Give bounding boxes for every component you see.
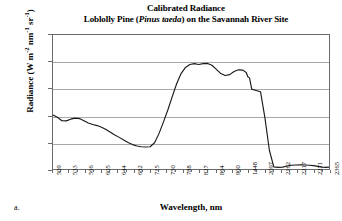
figure-caption: a. <box>14 203 20 212</box>
chart-subtitle: Loblolly Pine (Pinus taeda) on the Savan… <box>36 14 336 25</box>
x-tick-label-2217: 2217 <box>300 162 307 175</box>
x-tick-mark-2217 <box>297 170 298 173</box>
plot-area <box>52 34 330 170</box>
x-tick-label-2162: 2162 <box>284 162 291 175</box>
y-axis-title-lead: Radiance (W m <box>25 53 35 113</box>
x-tick-minor <box>191 170 192 172</box>
y-axis-title: Radiance (W m-2 nm-1 sr-1) <box>25 0 35 136</box>
x-tick-minor <box>142 170 143 172</box>
x-tick-mark-682 <box>134 170 135 173</box>
data-line-svg <box>53 35 329 169</box>
x-tick-mark-605 <box>101 170 102 173</box>
x-tick-minor <box>289 170 290 172</box>
x-tick-mark-750 <box>166 170 167 173</box>
x-tick-minor <box>322 170 323 172</box>
x-tick-mark-2271 <box>314 170 315 173</box>
x-tick-mark-566 <box>85 170 86 173</box>
x-tick-minor <box>93 170 94 172</box>
x-tick-minor <box>158 170 159 172</box>
x-tick-label-2271: 2271 <box>316 162 323 175</box>
x-tick-mark-900 <box>232 170 233 173</box>
x-tick-mark-788 <box>183 170 184 173</box>
x-tick-mark-644 <box>117 170 118 173</box>
x-tick-mark-2097 <box>265 170 266 173</box>
x-tick-mark-1448 <box>248 170 249 173</box>
x-tick-minor <box>305 170 306 172</box>
chart-figure: Calibrated Radiance Loblolly Pine (Pinus… <box>0 0 342 221</box>
y-axis-exponent-1: -2 <box>23 48 30 53</box>
subtitle-prefix: Loblolly Pine ( <box>84 14 139 24</box>
x-tick-mark-509 <box>52 170 53 173</box>
x-tick-minor <box>207 170 208 172</box>
y-axis-title-tail: ) <box>25 9 35 12</box>
x-tick-mark-2365 <box>330 170 331 173</box>
x-tick-mark-533 <box>68 170 69 173</box>
x-tick-minor <box>175 170 176 172</box>
x-tick-label-2097: 2097 <box>267 162 274 175</box>
x-tick-mark-864 <box>216 170 217 173</box>
x-tick-minor <box>240 170 241 172</box>
subtitle-suffix: ) on the Savannah River Site <box>181 14 288 24</box>
x-tick-mark-827 <box>199 170 200 173</box>
x-tick-label-2365: 2365 <box>333 162 340 175</box>
y-axis-exponent-3: -1 <box>23 12 30 17</box>
y-tick-mark-5000 <box>48 34 52 35</box>
y-tick-mark-4000 <box>48 61 52 62</box>
y-axis-title-mid-2: sr <box>25 18 35 28</box>
x-tick-minor <box>60 170 61 172</box>
x-tick-label-1448: 1448 <box>251 162 258 175</box>
radiance-line-series <box>53 63 329 167</box>
x-tick-minor <box>77 170 78 172</box>
y-tick-mark-2000 <box>48 116 52 117</box>
x-axis-title: Wavelength, nm <box>52 202 330 212</box>
y-tick-mark-3000 <box>48 88 52 89</box>
x-tick-mark-715 <box>150 170 151 173</box>
x-tick-minor <box>109 170 110 172</box>
x-tick-mark-2162 <box>281 170 282 173</box>
chart-title: Calibrated Radiance <box>36 3 336 14</box>
y-axis-exponent-2: -1 <box>23 27 30 32</box>
x-tick-minor <box>224 170 225 172</box>
chart-title-block: Calibrated Radiance Loblolly Pine (Pinus… <box>36 3 336 24</box>
x-tick-minor <box>273 170 274 172</box>
x-tick-minor <box>126 170 127 172</box>
y-tick-mark-1000 <box>48 143 52 144</box>
y-axis-title-mid-1: nm <box>25 33 35 48</box>
subtitle-species-name: Pinus taeda <box>139 14 182 24</box>
x-tick-minor <box>256 170 257 172</box>
